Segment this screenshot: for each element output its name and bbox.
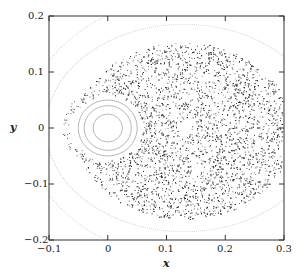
y-axis-label: y — [10, 121, 16, 134]
y-tick-label: −0.2 — [24, 234, 48, 245]
x-tick-label: 0 — [105, 243, 111, 254]
regular-island-curves — [78, 100, 137, 156]
chaotic-sea-points — [63, 43, 284, 220]
x-tick-label: 0.2 — [217, 243, 233, 254]
x-tick-label: 0.1 — [158, 243, 174, 254]
x-tick-label: 0.3 — [276, 243, 292, 254]
y-tick-label: 0.2 — [28, 10, 44, 21]
x-axis-label: x — [163, 257, 170, 270]
y-tick-label: −0.1 — [24, 178, 48, 189]
y-tick-label: 0.1 — [28, 66, 44, 77]
y-tick-label: 0 — [38, 122, 44, 133]
